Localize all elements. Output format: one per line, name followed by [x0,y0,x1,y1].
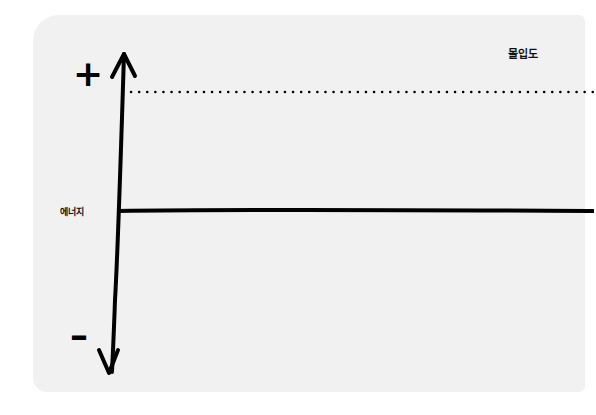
immersion-label: 몰입도 [508,45,538,61]
arrow-down-icon [99,350,118,373]
plus-sign: + [73,56,103,92]
vertical-axis-line [112,54,124,372]
energy-label: 에너지 [60,205,84,218]
energy-baseline [117,210,594,211]
minus-sign: – [70,318,88,354]
